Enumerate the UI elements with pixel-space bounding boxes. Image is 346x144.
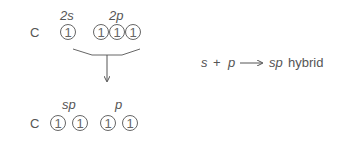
orbital-sp-1: 1 (51, 116, 66, 132)
combine-bracket (73, 49, 140, 55)
svg-text:1: 1 (113, 25, 120, 40)
svg-text:1: 1 (129, 25, 136, 40)
equation-p: p (227, 55, 235, 70)
equation-sp: sp (269, 55, 283, 70)
orbital-2s: 1 (61, 25, 76, 41)
equation-hybrid: hybrid (288, 55, 323, 70)
equation-plus: + (213, 55, 221, 70)
svg-text:1: 1 (126, 116, 133, 131)
svg-text:1: 1 (97, 25, 104, 40)
svg-text:1: 1 (64, 25, 71, 40)
orbital-sp-2: 1 (73, 116, 88, 132)
hybridization-diagram: C 2s 2p 1 1 1 1 C sp p 1 1 1 1 s + p sp (0, 0, 346, 144)
subshell-label-sp: sp (62, 97, 76, 112)
svg-text:1: 1 (76, 116, 83, 131)
orbital-2p-2: 1 (110, 25, 125, 41)
subshell-label-2s: 2s (59, 8, 74, 23)
orbital-2p-1: 1 (94, 25, 109, 41)
equation-s: s (201, 55, 208, 70)
atom-label-bottom: C (30, 116, 39, 131)
orbital-2p-3: 1 (126, 25, 141, 41)
svg-text:1: 1 (54, 116, 61, 131)
subshell-label-p: p (114, 97, 122, 112)
orbital-p-2: 1 (123, 116, 138, 132)
svg-text:1: 1 (104, 116, 111, 131)
subshell-label-2p: 2p (108, 8, 123, 23)
atom-label-top: C (30, 25, 39, 40)
orbital-p-1: 1 (101, 116, 116, 132)
